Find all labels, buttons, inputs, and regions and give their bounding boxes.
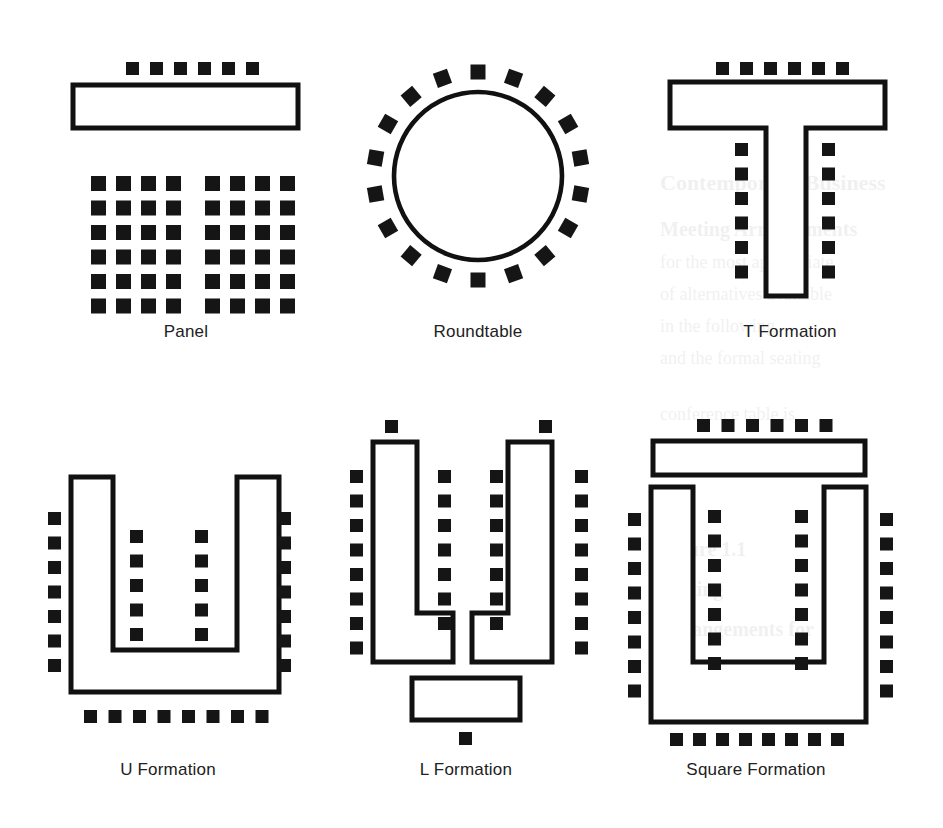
chair-marker (880, 611, 893, 624)
chair-marker (278, 610, 291, 623)
chair-marker (166, 250, 181, 265)
chair-marker (230, 250, 245, 265)
chair-marker (438, 495, 451, 508)
chair-marker (401, 86, 422, 107)
chair-marker (230, 225, 245, 240)
chair-marker (735, 241, 748, 254)
chair-marker (255, 299, 270, 314)
chair-marker (880, 513, 893, 526)
chair-marker (195, 628, 208, 641)
diagram-panel: Panel (73, 62, 298, 341)
chair-marker (280, 176, 295, 191)
chair-marker (880, 538, 893, 551)
chair-marker (255, 250, 270, 265)
chair-marker (230, 274, 245, 289)
chair-marker (130, 579, 143, 592)
chair-marker (222, 62, 235, 75)
chair-marker (722, 419, 735, 432)
chair-marker (459, 732, 472, 745)
chair-marker (141, 250, 156, 265)
chair-marker (822, 266, 835, 279)
chair-marker (739, 733, 752, 746)
chair-marker (280, 299, 295, 314)
panel-audience-left (91, 176, 181, 314)
chair-marker (438, 470, 451, 483)
chair-marker (831, 733, 844, 746)
u-inner-left-chairs (130, 530, 143, 641)
chair-marker (795, 559, 808, 572)
chair-marker (378, 114, 398, 134)
l-right-inner-chairs (490, 470, 503, 630)
panel-head-chairs (126, 62, 259, 75)
chair-marker (433, 264, 452, 283)
chair-marker (880, 636, 893, 649)
chair-marker (278, 659, 291, 672)
chair-marker (116, 299, 131, 314)
chair-marker (820, 419, 833, 432)
chair-marker (433, 69, 452, 88)
chair-marker (350, 470, 363, 483)
chair-marker (230, 201, 245, 216)
chair-marker (628, 636, 641, 649)
chair-marker (278, 537, 291, 550)
bleed-line: and the formal seating (660, 348, 820, 368)
l-left-outer-chairs (350, 470, 363, 655)
chair-marker (166, 299, 181, 314)
chair-marker (109, 710, 122, 723)
chair-marker (116, 225, 131, 240)
chair-marker (255, 274, 270, 289)
chair-marker (822, 168, 835, 181)
chair-marker (735, 266, 748, 279)
chair-marker (130, 604, 143, 617)
diagram-canvas: Contemporary BusinessMeeting Arrangement… (0, 0, 943, 828)
chair-marker (628, 513, 641, 526)
chair-marker (278, 586, 291, 599)
chair-marker (490, 544, 503, 557)
chair-marker (708, 608, 721, 621)
chair-marker (195, 530, 208, 543)
chair-marker (708, 535, 721, 548)
chair-marker (575, 617, 588, 630)
chair-marker (280, 274, 295, 289)
chair-marker (575, 544, 588, 557)
chair-marker (795, 510, 808, 523)
caption-u-formation: U Formation (120, 760, 216, 779)
chair-marker (350, 642, 363, 655)
u-formation-table (71, 477, 279, 692)
l-bottom-table (412, 678, 520, 720)
chair-marker (490, 519, 503, 532)
chair-marker (771, 419, 784, 432)
chair-marker (205, 250, 220, 265)
chair-marker (438, 568, 451, 581)
chair-marker (278, 561, 291, 574)
chair-marker (795, 633, 808, 646)
chair-marker (48, 586, 61, 599)
chair-marker (48, 610, 61, 623)
chair-marker (84, 710, 97, 723)
chair-marker (812, 62, 825, 75)
chair-marker (764, 62, 777, 75)
chair-marker (740, 62, 753, 75)
chair-marker (438, 617, 451, 630)
square-inner-left-chairs (708, 510, 721, 670)
chair-marker (490, 495, 503, 508)
roundtable-table (394, 92, 562, 260)
square-head-table (653, 441, 865, 475)
square-bottom-chairs (670, 733, 844, 746)
caption-roundtable: Roundtable (434, 322, 523, 341)
chair-marker (401, 245, 422, 266)
chair-marker (166, 201, 181, 216)
chair-marker (166, 225, 181, 240)
seating-formations-figure: Contemporary BusinessMeeting Arrangement… (0, 0, 943, 828)
chair-marker (735, 168, 748, 181)
chair-marker (367, 185, 384, 202)
diagram-square-formation: Square Formation (628, 419, 893, 779)
chair-marker (795, 584, 808, 597)
chair-marker (628, 611, 641, 624)
chair-marker (558, 218, 578, 238)
chair-marker (575, 568, 588, 581)
chair-marker (822, 192, 835, 205)
chair-marker (195, 604, 208, 617)
chair-marker (438, 544, 451, 557)
chair-marker (255, 225, 270, 240)
